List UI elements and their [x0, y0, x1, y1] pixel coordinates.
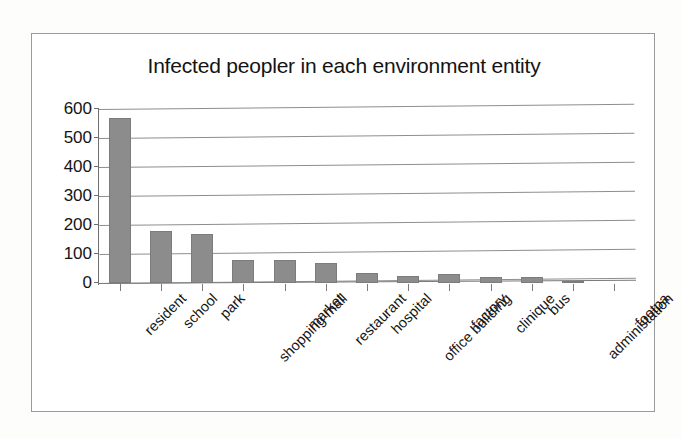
x-tick-0 — [120, 284, 121, 291]
y-tick-label-0: 0 — [48, 274, 92, 291]
y-tick-label-200: 200 — [48, 216, 92, 233]
x-label-text: factory — [469, 291, 510, 332]
bar-clinique[interactable] — [480, 277, 502, 283]
x-label-text: clinique — [512, 291, 557, 336]
x-label-text: market — [305, 291, 347, 333]
x-label-text: park — [217, 291, 248, 322]
x-tick-9 — [491, 284, 492, 291]
bar-bus[interactable] — [521, 277, 543, 283]
chart-frame: Infected peopler in each environment ent… — [31, 33, 655, 412]
x-label-school: school — [180, 291, 220, 331]
bar-hospital[interactable] — [356, 273, 378, 283]
scanned-page: Infected peopler in each environment ent… — [0, 0, 682, 439]
y-tick-label-100: 100 — [48, 245, 92, 262]
x-label-text: resident — [142, 291, 189, 338]
y-tick-label-400: 400 — [48, 158, 92, 175]
x-tick-4 — [285, 284, 286, 291]
bar-administation[interactable] — [562, 281, 584, 283]
x-label-clinique: clinique — [512, 291, 557, 336]
x-tick-7 — [408, 284, 409, 291]
y-tick-label-600: 600 — [48, 100, 92, 117]
x-axis-category-labels: residentschoolparkshopping mallmarketres… — [32, 291, 656, 413]
y-tick-label-500: 500 — [48, 129, 92, 146]
y-tick-label-300: 300 — [48, 187, 92, 204]
bar-school[interactable] — [150, 231, 172, 283]
x-tick-8 — [449, 284, 450, 291]
bar-market[interactable] — [274, 260, 296, 283]
x-tick-12 — [614, 284, 615, 291]
x-tick-5 — [326, 284, 327, 291]
x-label-text: school — [180, 291, 220, 331]
x-tick-3 — [243, 284, 244, 291]
x-tick-11 — [573, 284, 574, 291]
x-tick-1 — [161, 284, 162, 291]
chart-title: Infected peopler in each environment ent… — [32, 54, 656, 78]
x-tick-2 — [202, 284, 203, 291]
bar-park[interactable] — [191, 234, 213, 283]
x-label-resident: resident — [142, 291, 189, 338]
x-tick-6 — [367, 284, 368, 291]
x-label-market: market — [305, 291, 347, 333]
x-label-factory: factory — [469, 291, 510, 332]
x-tick-10 — [532, 284, 533, 291]
bar-restaurant[interactable] — [315, 263, 337, 283]
bar-shopping-mall[interactable] — [232, 260, 254, 283]
bar-office-building[interactable] — [397, 276, 419, 283]
x-label-park: park — [217, 291, 248, 322]
bar-factory[interactable] — [438, 274, 460, 283]
bar-series — [99, 109, 635, 283]
bar-resident[interactable] — [109, 118, 131, 283]
